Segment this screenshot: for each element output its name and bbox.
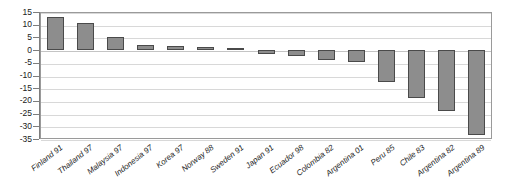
bar bbox=[288, 50, 305, 56]
bar bbox=[378, 50, 395, 82]
y-axis-tick-label-wrap: 0 bbox=[0, 46, 32, 55]
bar bbox=[258, 50, 275, 54]
y-axis-tick-label-wrap: 10 bbox=[0, 20, 32, 29]
y-axis-tick-label-wrap: 5 bbox=[0, 33, 32, 42]
y-axis-tick-label: -20 bbox=[2, 96, 32, 105]
y-axis-tick-label: 5 bbox=[2, 33, 32, 42]
bar bbox=[167, 46, 184, 50]
y-axis-tick-label: -25 bbox=[2, 109, 32, 118]
bar bbox=[107, 37, 124, 50]
bar bbox=[318, 50, 335, 60]
bar bbox=[197, 47, 214, 50]
bar bbox=[348, 50, 365, 61]
bar bbox=[408, 50, 425, 98]
bar bbox=[77, 23, 94, 50]
y-axis-tick-label: -5 bbox=[2, 58, 32, 67]
bar bbox=[468, 50, 485, 135]
bar-chart: 151050-5-10-15-20-25-30-35 Finland 91Tha… bbox=[0, 0, 506, 196]
y-axis-tick-label-wrap: -20 bbox=[0, 96, 32, 105]
y-axis-tick-label: -30 bbox=[2, 122, 32, 131]
x-axis-labels: Finland 91Thailand 97Malaysia 97Indonesi… bbox=[0, 139, 506, 196]
y-axis-tick-label-wrap: 15 bbox=[0, 8, 32, 17]
y-axis-tick-label: 0 bbox=[2, 46, 32, 55]
y-axis-tick-label-wrap: -30 bbox=[0, 122, 32, 131]
y-axis-tick-label-wrap: -5 bbox=[0, 58, 32, 67]
y-axis-tick-label: 10 bbox=[2, 20, 32, 29]
y-axis-tick-label: -10 bbox=[2, 71, 32, 80]
y-axis-tick-label: -15 bbox=[2, 84, 32, 93]
bar bbox=[227, 48, 244, 50]
bar bbox=[47, 17, 64, 50]
bar bbox=[137, 45, 154, 51]
y-axis-tick-label-wrap: -15 bbox=[0, 84, 32, 93]
y-axis-tick-label-wrap: -10 bbox=[0, 71, 32, 80]
y-axis-tick-label-wrap: -25 bbox=[0, 109, 32, 118]
y-axis-tick-label: 15 bbox=[2, 8, 32, 17]
bar-series bbox=[40, 12, 492, 139]
bar bbox=[438, 50, 455, 111]
